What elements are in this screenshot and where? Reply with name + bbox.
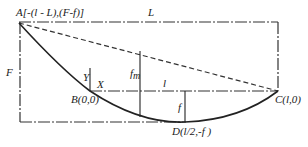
cable-diagram: A[-(l - L),(F-f)] L F Y X B(0,0) fm l f … <box>0 0 308 147</box>
dimension-f-lower-label: f <box>178 101 183 113</box>
dimension-f-upper-label: F <box>5 66 13 78</box>
point-a-label: A[-(l - L),(F-f)] <box>15 6 84 19</box>
dimension-l-upper-label: L <box>147 6 154 18</box>
x-axis-label: X <box>96 78 105 90</box>
dimension-l-lower-label: l <box>163 77 166 89</box>
chord-line-ac <box>19 23 278 91</box>
cable-curve <box>19 23 278 122</box>
point-c-label: C(l,0) <box>275 93 301 106</box>
fm-label: fm <box>130 67 140 81</box>
point-b-label: B(0,0) <box>71 93 99 106</box>
point-d-label: D(l/2,-f ) <box>171 125 211 138</box>
